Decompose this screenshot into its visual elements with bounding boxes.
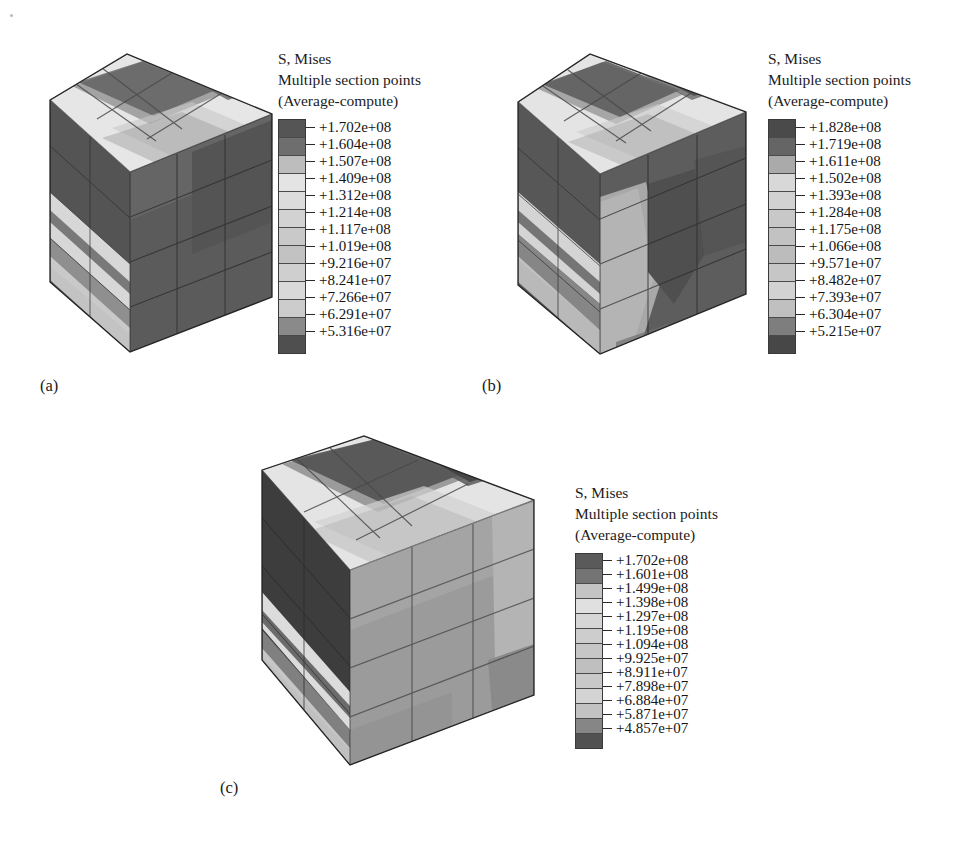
tick-label: +6.304e+07	[809, 307, 881, 322]
tick-dash-icon	[603, 644, 612, 645]
tick-dash-icon	[306, 229, 315, 230]
subfigure-label-c: (c)	[220, 778, 238, 798]
tick-row: +9.925e+07	[603, 651, 688, 665]
tick-dash-icon	[796, 280, 805, 281]
tick-dash-icon	[603, 714, 612, 715]
colorbar-swatch	[769, 264, 795, 282]
tick-dash-icon	[796, 178, 805, 179]
colorbar-swatch	[576, 689, 602, 704]
colorbar-swatch	[769, 156, 795, 174]
tick-row: +5.871e+07	[603, 707, 688, 721]
tick-label: +7.266e+07	[319, 290, 391, 305]
colorbar-swatch	[279, 210, 305, 228]
legend-b-title-line3: (Average-compute)	[768, 90, 911, 111]
figure-root: S, Mises Multiple section points (Averag…	[0, 0, 972, 853]
tick-row: +1.601e+08	[603, 567, 688, 581]
colorbar-swatch	[576, 719, 602, 734]
tick-row: +8.911e+07	[603, 665, 688, 679]
tick-dash-icon	[796, 297, 805, 298]
tick-label: +1.409e+08	[319, 171, 391, 186]
tick-dash-icon	[796, 127, 805, 128]
tick-label: +1.066e+08	[809, 239, 881, 254]
tick-label: +1.828e+08	[809, 120, 881, 135]
colorbar-swatch	[576, 704, 602, 719]
colorbar-swatch	[769, 120, 795, 138]
tick-row: +8.241e+07	[306, 272, 391, 289]
legend-c-body: +1.702e+08+1.601e+08+1.499e+08+1.398e+08…	[575, 553, 718, 749]
legend-b: S, Mises Multiple section points (Averag…	[768, 48, 911, 354]
tick-row: +4.857e+07	[603, 721, 688, 735]
tick-dash-icon	[796, 246, 805, 247]
tick-dash-icon	[603, 700, 612, 701]
tick-row: +1.502e+08	[796, 170, 881, 187]
colorbar-swatch	[576, 674, 602, 689]
colorbar-swatch	[769, 300, 795, 318]
tick-label: +7.393e+07	[809, 290, 881, 305]
tick-row: +8.482e+07	[796, 272, 881, 289]
legend-b-body: +1.828e+08+1.719e+08+1.611e+08+1.502e+08…	[768, 119, 911, 354]
tick-dash-icon	[796, 229, 805, 230]
tick-label: +1.284e+08	[809, 205, 881, 220]
tick-dash-icon	[796, 144, 805, 145]
tick-label: +8.482e+07	[809, 273, 881, 288]
colorbar-swatch	[769, 228, 795, 246]
tick-label: +1.604e+08	[319, 137, 391, 152]
colorbar-swatch	[576, 569, 602, 584]
colorbar-swatch	[279, 156, 305, 174]
colorbar-swatch	[769, 192, 795, 210]
tick-row: +9.571e+07	[796, 255, 881, 272]
tick-row: +1.398e+08	[603, 595, 688, 609]
legend-a-title-line1: S, Mises	[278, 48, 421, 69]
colorbar-swatch	[279, 318, 305, 336]
legend-a-title-line2: Multiple section points	[278, 69, 421, 90]
tick-row: +1.611e+08	[796, 153, 881, 170]
tick-dash-icon	[306, 178, 315, 179]
colorbar-swatch	[279, 174, 305, 192]
colorbar-swatch	[576, 554, 602, 569]
tick-row: +1.094e+08	[603, 637, 688, 651]
colorbar-a	[278, 119, 306, 354]
tick-row: +1.312e+08	[306, 187, 391, 204]
colorbar-c	[575, 553, 603, 749]
tick-dash-icon	[603, 602, 612, 603]
legend-b-title-line1: S, Mises	[768, 48, 911, 69]
tick-dash-icon	[306, 263, 315, 264]
tick-label: +1.719e+08	[809, 137, 881, 152]
tick-row: +1.195e+08	[603, 623, 688, 637]
panel-b: S, Mises Multiple section points (Averag…	[470, 0, 972, 420]
tick-row: +5.316e+07	[306, 323, 391, 340]
tick-dash-icon	[306, 314, 315, 315]
legend-b-title-line2: Multiple section points	[768, 69, 911, 90]
colorbar-swatch	[279, 300, 305, 318]
tick-dash-icon	[603, 686, 612, 687]
panel-a: S, Mises Multiple section points (Averag…	[0, 0, 470, 420]
tick-dash-icon	[796, 161, 805, 162]
tick-dash-icon	[603, 658, 612, 659]
tick-row: +1.507e+08	[306, 153, 391, 170]
colorbar-swatch	[279, 138, 305, 156]
tick-dash-icon	[796, 331, 805, 332]
colorbar-swatch	[769, 210, 795, 228]
colorbar-swatch	[769, 318, 795, 336]
tick-dash-icon	[306, 280, 315, 281]
tick-row: +7.898e+07	[603, 679, 688, 693]
colorbar-swatch	[576, 629, 602, 644]
tick-row: +1.702e+08	[306, 119, 391, 136]
colorbar-swatch	[279, 228, 305, 246]
tick-dash-icon	[306, 144, 315, 145]
tick-row: +1.604e+08	[306, 136, 391, 153]
tick-label: +4.857e+07	[616, 721, 688, 736]
stress-cube-c	[252, 430, 552, 775]
tick-label: +5.215e+07	[809, 324, 881, 339]
tick-label: +1.393e+08	[809, 188, 881, 203]
legend-c-title-line3: (Average-compute)	[575, 524, 718, 545]
tick-label: +1.019e+08	[319, 239, 391, 254]
subfigure-label-a: (a)	[40, 376, 58, 396]
tick-row: +1.702e+08	[603, 553, 688, 567]
tick-dash-icon	[306, 161, 315, 162]
colorbar-swatch	[576, 614, 602, 629]
tick-row: +6.884e+07	[603, 693, 688, 707]
tick-dash-icon	[603, 616, 612, 617]
colorbar-swatch	[769, 336, 795, 353]
tick-dash-icon	[796, 314, 805, 315]
